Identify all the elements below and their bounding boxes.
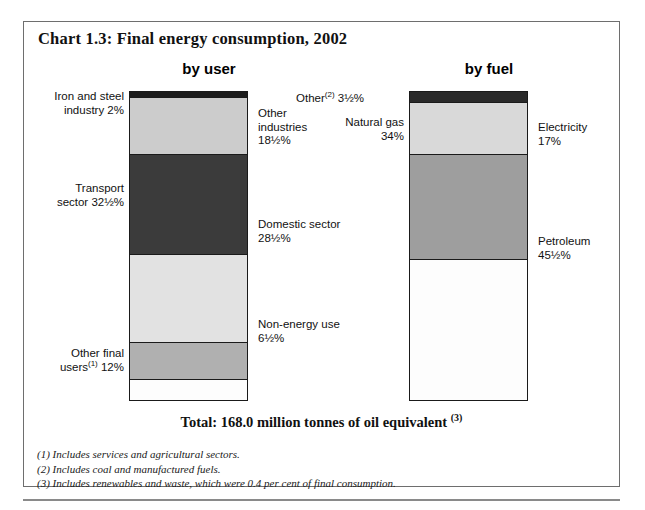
chart-title: Chart 1.3: Final energy consumption, 200…	[38, 29, 347, 49]
segment-domestic-sector[interactable]	[130, 255, 247, 343]
segment-other-industries[interactable]	[130, 98, 247, 155]
chart-frame: Chart 1.3: Final energy consumption, 200…	[23, 21, 620, 487]
segment-natural-gas[interactable]	[410, 155, 527, 260]
segment-petroleum[interactable]	[410, 260, 527, 400]
label-non-energy-use: Non-energy use 6½%	[258, 318, 388, 345]
footnote-marker-1: (1)	[88, 359, 98, 368]
footnote-2: (2) Includes coal and manufactured fuels…	[37, 462, 597, 477]
label-natural-gas: Natural gas 34%	[296, 116, 404, 143]
label-other-fuel-value: 3½%	[335, 92, 364, 104]
segment-other-fuel[interactable]	[410, 92, 527, 103]
segment-electricity[interactable]	[410, 103, 527, 155]
footnotes: (1) Includes services and agricultural s…	[37, 447, 597, 491]
label-domestic-sector: Domestic sector 28½%	[258, 218, 388, 245]
label-other-final-users: Other final users(1) 12%	[34, 347, 124, 374]
label-electricity: Electricity 17%	[538, 121, 645, 148]
segment-non-energy-use[interactable]	[130, 380, 247, 400]
chart-total-line: Total: 168.0 million tonnes of oil equiv…	[24, 414, 619, 431]
label-other-final-users-value: 12%	[98, 361, 124, 373]
column-header-by-user: by user	[149, 60, 269, 77]
label-other-fuel-text: Other	[296, 92, 325, 104]
chart-total-text: Total: 168.0 million tonnes of oil equiv…	[181, 414, 448, 430]
footnote-marker-2: (2)	[325, 90, 335, 99]
segment-transport-sector[interactable]	[130, 155, 247, 255]
footnote-3: (3) Includes renewables and waste, which…	[37, 476, 597, 491]
label-iron-steel-industry: Iron and steel industry 2%	[34, 90, 124, 117]
page-bottom-rule	[23, 499, 620, 501]
segment-other-final-users[interactable]	[130, 343, 247, 380]
column-header-by-fuel: by fuel	[429, 60, 549, 77]
label-other-fuel: Other(2) 3½%	[296, 92, 404, 106]
label-transport-sector: Transport sector 32½%	[34, 182, 124, 209]
footnote-marker-3: (3)	[451, 412, 463, 423]
label-petroleum: Petroleum 45½%	[538, 235, 645, 262]
stacked-bar-by-fuel	[409, 91, 528, 401]
stacked-bar-by-user	[129, 91, 248, 401]
footnote-1: (1) Includes services and agricultural s…	[37, 447, 597, 462]
